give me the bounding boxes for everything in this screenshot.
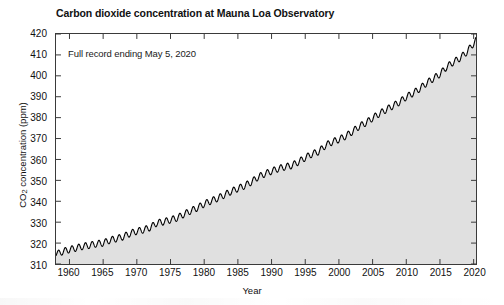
x-axis-tick-labels: 1960196519701975198019851990199520002005… <box>55 267 477 283</box>
plot-area <box>55 33 477 265</box>
scan-artifact <box>0 298 504 305</box>
x-tick-label: 2000 <box>328 267 350 278</box>
y-axis-title-suffix: concentration (ppm) <box>17 102 28 189</box>
record-end-annotation: Full record ending May 5, 2020 <box>68 48 196 59</box>
y-tick-label: 330 <box>30 217 47 228</box>
y-tick-label: 360 <box>30 154 47 165</box>
y-axis-title-prefix: CO <box>17 194 28 208</box>
x-tick-label: 1975 <box>159 267 181 278</box>
x-tick-label: 1965 <box>91 267 113 278</box>
y-tick-label: 420 <box>30 28 47 39</box>
y-tick-label: 400 <box>30 70 47 81</box>
keeling-curve-plot <box>56 34 476 264</box>
y-tick-label: 370 <box>30 133 47 144</box>
page-title: Carbon dioxide concentration at Mauna Lo… <box>56 7 334 19</box>
y-axis-title: CO2 concentration (ppm) <box>17 65 29 245</box>
x-tick-label: 1990 <box>260 267 282 278</box>
y-tick-label: 340 <box>30 196 47 207</box>
x-tick-label: 1980 <box>193 267 215 278</box>
x-tick-label: 1995 <box>294 267 316 278</box>
y-tick-label: 350 <box>30 175 47 186</box>
y-tick-label: 390 <box>30 91 47 102</box>
x-tick-label: 2015 <box>430 267 452 278</box>
y-tick-label: 410 <box>30 49 47 60</box>
y-axis-title-subscript: 2 <box>20 189 29 193</box>
y-tick-label: 380 <box>30 112 47 123</box>
x-tick-label: 1985 <box>227 267 249 278</box>
x-axis-title: Year <box>0 285 504 296</box>
x-tick-label: 2005 <box>362 267 384 278</box>
x-tick-label: 1970 <box>125 267 147 278</box>
area-fill <box>56 37 476 264</box>
y-tick-label: 310 <box>30 260 47 271</box>
x-tick-label: 2010 <box>396 267 418 278</box>
y-tick-label: 320 <box>30 238 47 249</box>
figure: Carbon dioxide concentration at Mauna Lo… <box>0 0 504 305</box>
x-tick-label: 1960 <box>57 267 79 278</box>
x-tick-label: 2020 <box>464 267 486 278</box>
